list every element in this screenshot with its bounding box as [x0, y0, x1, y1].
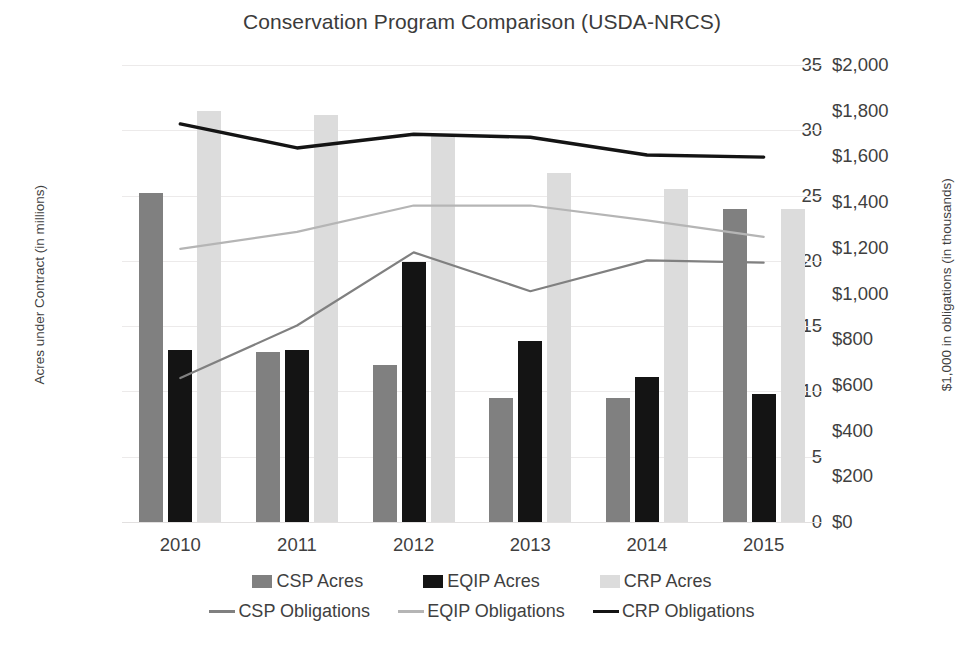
legend-swatch-icon — [252, 575, 272, 588]
legend-label: EQIP Acres — [447, 572, 540, 590]
x-axis-tick-label: 2011 — [237, 536, 357, 555]
y-axis-right-tick-label: $2,000 — [832, 56, 889, 75]
legend-line-icon — [593, 610, 619, 613]
y-axis-right-tick-label: $800 — [832, 330, 873, 349]
legend-label: CRP Acres — [624, 572, 712, 590]
y-axis-right-tick-label: $1,600 — [832, 147, 889, 166]
y-axis-right-title: $1,000 in obligations (in thousands) — [940, 170, 954, 400]
legend-item[interactable]: EQIP Obligations — [398, 602, 565, 620]
legend-item[interactable]: EQIP Acres — [423, 572, 540, 590]
x-axis-tick-label: 2014 — [587, 536, 707, 555]
y-axis-right-tick-label: $1,200 — [832, 239, 889, 258]
x-axis-tick-label: 2012 — [354, 536, 474, 555]
y-axis-right-tick-label: $400 — [832, 422, 873, 441]
legend-label: CSP Obligations — [238, 602, 370, 620]
legend-swatch-icon — [423, 575, 443, 588]
legend-item[interactable]: CSP Acres — [252, 572, 363, 590]
y-axis-right-tick-label: $1,800 — [832, 102, 889, 121]
legend-item[interactable]: CSP Obligations — [209, 602, 370, 620]
x-axis-tick-label: 2013 — [470, 536, 590, 555]
x-axis-tick-label: 2015 — [704, 536, 824, 555]
y-axis-right-tick-label: $200 — [832, 467, 873, 486]
legend-label: EQIP Obligations — [427, 602, 565, 620]
chart-legend: CSP AcresEQIP AcresCRP Acres CSP Obligat… — [0, 566, 964, 626]
legend-swatch-icon — [600, 575, 620, 588]
legend-line-icon — [209, 610, 235, 613]
chart-title: Conservation Program Comparison (USDA-NR… — [0, 10, 964, 34]
y-axis-right-tick-label: $1,400 — [832, 193, 889, 212]
legend-label: CRP Obligations — [622, 602, 755, 620]
legend-row-bars: CSP AcresEQIP AcresCRP Acres — [0, 566, 964, 596]
legend-item[interactable]: CRP Obligations — [593, 602, 755, 620]
line-series-group — [122, 65, 822, 522]
plot-area — [122, 65, 822, 522]
line-csp-obligations — [180, 252, 763, 378]
line-crp-obligations — [180, 124, 763, 157]
y-axis-right-tick-label: $1,000 — [832, 285, 889, 304]
y-axis-left-title: Acres under Contract (in millions) — [33, 170, 47, 400]
y-axis-right-tick-label: $0 — [832, 513, 853, 532]
legend-line-icon — [398, 610, 424, 613]
line-eqip-obligations — [180, 206, 763, 249]
legend-item[interactable]: CRP Acres — [600, 572, 712, 590]
gridline — [122, 522, 822, 523]
x-axis-tick-label: 2010 — [120, 536, 240, 555]
legend-label: CSP Acres — [276, 572, 363, 590]
chart-container: Conservation Program Comparison (USDA-NR… — [0, 0, 964, 671]
legend-row-lines: CSP ObligationsEQIP ObligationsCRP Oblig… — [0, 596, 964, 626]
y-axis-right-tick-label: $600 — [832, 376, 873, 395]
